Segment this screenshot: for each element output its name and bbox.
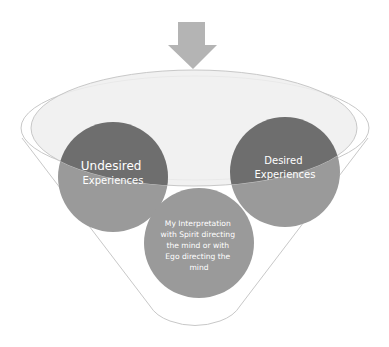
down-arrow-icon	[168, 22, 217, 69]
funnel-diagram: Undesired Experiences Desired Experience…	[0, 0, 389, 347]
undesired-label: Undesired Experiences	[81, 159, 145, 186]
